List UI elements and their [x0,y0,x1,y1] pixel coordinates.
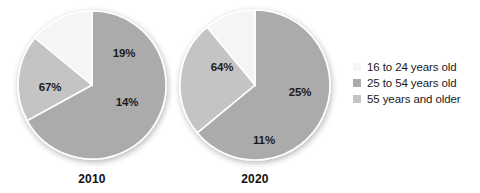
year-label: 2010 [78,172,106,186]
legend-swatch-icon [353,95,361,103]
slice-percentage-label: 19% [113,47,136,59]
year-label: 2020 [241,172,269,186]
legend-swatch-icon [353,63,361,71]
legend-item: 55 years and older [353,91,460,107]
legend-item: 16 to 24 years old [353,59,460,75]
pie-chart-2010 [10,3,174,167]
legend-label: 55 years and older [367,93,460,105]
chart-legend: 16 to 24 years old25 to 54 years old55 y… [353,59,460,107]
slice-percentage-label: 64% [211,61,234,73]
slice-percentage-label: 14% [116,96,139,108]
slice-percentage-label: 67% [39,81,62,93]
slice-percentage-label: 25% [289,86,312,98]
pie-svg [10,3,174,167]
legend-label: 25 to 54 years old [367,77,457,89]
pie-chart-figure: 20102020 16 to 24 years old25 to 54 year… [0,0,480,193]
legend-item: 25 to 54 years old [353,75,460,91]
slice-percentage-label: 11% [253,134,275,146]
legend-swatch-icon [353,79,361,87]
legend-label: 16 to 24 years old [367,61,457,73]
